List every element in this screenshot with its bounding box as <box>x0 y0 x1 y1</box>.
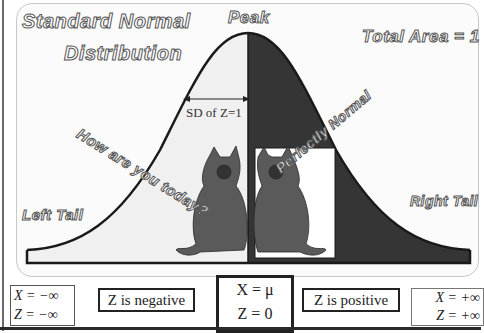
mean-z: Z = 0 <box>219 302 291 326</box>
total-area-label: Total Area = 1 <box>362 27 480 47</box>
sd-label: SD of Z=1 <box>186 105 242 121</box>
neg-infinity-box: X = −∞ Z = −∞ <box>10 285 75 326</box>
z-negative-box: Z is negative <box>98 288 195 312</box>
z-positive-box: Z is positive <box>302 288 400 312</box>
pos-inf-z: Z = +∞ <box>412 307 480 325</box>
peak-label: Peak <box>228 8 270 28</box>
frame-bottom-border <box>0 327 481 330</box>
left-tail-label: Left Tail <box>22 206 83 223</box>
mean-x: X = μ <box>219 278 291 302</box>
right-tail-label: Right Tail <box>410 193 478 209</box>
pos-infinity-box: X = +∞ Z = +∞ <box>411 288 484 326</box>
title-line2: Distribution <box>64 42 182 65</box>
mean-box: X = μ Z = 0 <box>216 275 294 333</box>
title-line1: Standard Normal <box>22 10 191 33</box>
pos-inf-x: X = +∞ <box>412 289 480 307</box>
neg-inf-z: Z = −∞ <box>14 305 74 324</box>
neg-inf-x: X = −∞ <box>14 286 74 305</box>
